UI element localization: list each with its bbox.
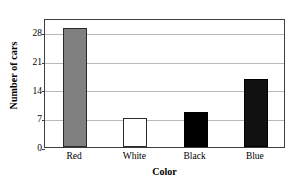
y-axis-tick-mark — [42, 34, 45, 35]
x-axis-title: Color — [44, 166, 285, 178]
y-axis-tick-label: 0 — [22, 143, 42, 153]
x-axis-tick-label: White — [104, 150, 164, 163]
y-axis-title-label: Number of cars — [9, 41, 20, 109]
x-axis-tick-label: Black — [165, 150, 225, 163]
y-axis-tick-label: 21 — [22, 57, 42, 67]
y-axis-title: Number of cars — [4, 0, 24, 150]
x-axis-tick-label: Blue — [225, 150, 285, 163]
bar-blue — [244, 79, 268, 147]
y-axis-tick-mark — [42, 120, 45, 121]
bar-black — [184, 112, 208, 147]
x-axis-tick-label: Red — [44, 150, 104, 163]
bar-red — [63, 28, 87, 147]
x-axis-tick-labels: RedWhiteBlackBlue — [44, 150, 285, 166]
y-axis-tick-labels: 07142128 — [22, 19, 42, 148]
y-axis-tick-label: 28 — [22, 28, 42, 38]
y-axis-tick-label: 14 — [22, 86, 42, 96]
bar-chart: Number of cars 07142128 RedWhiteBlackBlu… — [0, 0, 304, 186]
y-axis-tick-label: 7 — [22, 114, 42, 124]
bar-white — [123, 118, 147, 147]
plot-area — [44, 19, 285, 148]
y-axis-tick-mark — [42, 91, 45, 92]
y-axis-tick-mark — [42, 63, 45, 64]
